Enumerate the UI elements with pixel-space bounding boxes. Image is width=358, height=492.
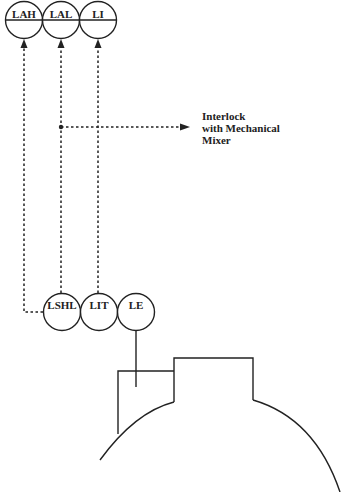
small-nozzle	[118, 371, 174, 434]
arrow-icon	[21, 39, 28, 48]
large-nozzle	[174, 358, 253, 402]
interlock-note-line3: Mixer	[202, 134, 280, 146]
tag-lah: LAH	[6, 8, 42, 20]
interlock-note: Interlock with Mechanical Mixer	[202, 110, 280, 146]
arrow-icon	[95, 39, 102, 48]
tag-lit: LIT	[81, 299, 117, 311]
diagram-graphics	[0, 0, 358, 492]
tag-li: LI	[80, 8, 116, 20]
junction-dot	[59, 125, 63, 129]
arrow-icon	[58, 39, 65, 48]
signal-line-lah	[24, 48, 43, 312]
arrow-icon	[180, 124, 190, 131]
tag-le: LE	[118, 299, 154, 311]
tag-lshl: LSHL	[43, 299, 81, 311]
tag-lal: LAL	[43, 8, 79, 20]
interlock-note-line1: Interlock	[202, 110, 280, 122]
interlock-note-line2: with Mechanical	[202, 122, 280, 134]
vessel-top-right	[253, 400, 340, 492]
vessel-top-left	[100, 402, 174, 460]
pid-diagram: LAH LAL LI LSHL LIT LE Interlock with Me…	[0, 0, 358, 492]
